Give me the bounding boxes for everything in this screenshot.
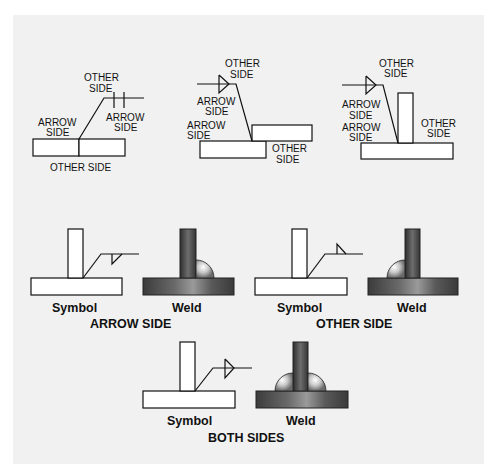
weld-label: Weld bbox=[397, 301, 427, 315]
weld-plate-stem bbox=[293, 342, 308, 391]
label-other-side-top: OTHER SIDE bbox=[379, 58, 417, 79]
weld-bead-right bbox=[308, 373, 326, 391]
label-arrow-side-right: ARROW SIDE bbox=[106, 112, 147, 133]
weld-bead-left bbox=[275, 373, 293, 391]
weld-label: Weld bbox=[172, 301, 202, 315]
label-other-side-plate: OTHER SIDE bbox=[421, 118, 459, 139]
symbol-plate-stem bbox=[292, 229, 307, 278]
plate-stem bbox=[398, 93, 413, 143]
label-other-side-top: OTHER SIDE bbox=[225, 58, 263, 80]
symbol-leader bbox=[83, 254, 139, 278]
plate-upper bbox=[252, 125, 312, 141]
symbol-plate-stem bbox=[68, 229, 83, 278]
label-arrow-side-symbol: ARROW SIDE bbox=[197, 96, 238, 117]
weld-plate-base bbox=[143, 278, 234, 295]
symbol-plate-base bbox=[255, 278, 347, 295]
fillet-symbol-above bbox=[337, 244, 346, 254]
label-arrow-side-plate: ARROW SIDE bbox=[342, 122, 383, 143]
butt-joint-figure: OTHER SIDE ARROW SIDE ARROW SIDE OTHER S… bbox=[33, 72, 147, 173]
label-other-side-plate: OTHER SIDE bbox=[272, 143, 310, 165]
symbol-plate-stem bbox=[180, 342, 195, 391]
symbol-label: Symbol bbox=[277, 301, 322, 315]
symbol-leader bbox=[307, 254, 363, 278]
fillet-symbol-below bbox=[112, 254, 122, 264]
caption: ARROW SIDE bbox=[90, 317, 171, 331]
plate-lower bbox=[200, 141, 266, 158]
weld-bead bbox=[196, 260, 214, 278]
weld-plate-base bbox=[256, 391, 348, 408]
label-arrow-side-plate: ARROW SIDE bbox=[187, 120, 228, 141]
caption: BOTH SIDES bbox=[208, 431, 284, 445]
weld-bead bbox=[387, 260, 405, 278]
symbol-plate-base bbox=[31, 278, 122, 295]
symbol-label: Symbol bbox=[52, 301, 97, 315]
symbol-plate-base bbox=[143, 391, 235, 408]
label-arrow-side-left: ARROW SIDE bbox=[38, 117, 79, 138]
example-both-sides: Symbol Weld BOTH SIDES bbox=[143, 342, 348, 445]
label-other-side-bottom: OTHER SIDE bbox=[50, 162, 111, 173]
symbol-leader bbox=[195, 368, 252, 391]
example-arrow-side: Symbol Weld ARROW SIDE bbox=[31, 229, 234, 331]
weld-label: Weld bbox=[286, 414, 316, 428]
label-arrow-side-symbol: ARROW SIDE bbox=[342, 99, 383, 121]
plate-right bbox=[79, 139, 125, 156]
label-other-side-top: OTHER SIDE bbox=[84, 72, 122, 94]
example-other-side: Symbol Weld OTHER SIDE bbox=[255, 229, 458, 331]
lap-joint-figure: OTHER SIDE ARROW SIDE ARROW SIDE OTHER S… bbox=[187, 58, 312, 165]
weld-plate-base bbox=[368, 278, 458, 295]
tee-joint-figure: OTHER SIDE ARROW SIDE ARROW SIDE OTHER S… bbox=[342, 58, 459, 159]
plate-left bbox=[33, 139, 79, 156]
weld-plate-stem bbox=[180, 229, 196, 278]
weld-plate-stem bbox=[405, 229, 420, 278]
plate-base bbox=[361, 143, 453, 159]
weld-symbol-diagram: OTHER SIDE ARROW SIDE ARROW SIDE OTHER S… bbox=[0, 0, 494, 473]
symbol-label: Symbol bbox=[167, 414, 212, 428]
caption: OTHER SIDE bbox=[316, 317, 392, 331]
